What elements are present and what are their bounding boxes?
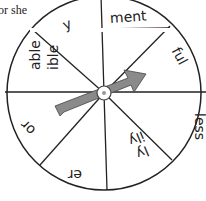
segment-able: able [27,40,43,70]
segment-ment: ment [109,7,147,26]
segment-ible: ible [45,45,61,70]
spinner-wheel: ment ful less ly ily er or able ible y [0,0,206,201]
segment-ful: ful [169,44,191,67]
segment-er: er [67,167,82,183]
segment-or: or [17,117,39,139]
spinner-illustration: or she ment ful less ly ily er [0,0,206,201]
spinner-arrow-icon[interactable] [55,70,146,116]
segment-less: less [192,113,206,140]
